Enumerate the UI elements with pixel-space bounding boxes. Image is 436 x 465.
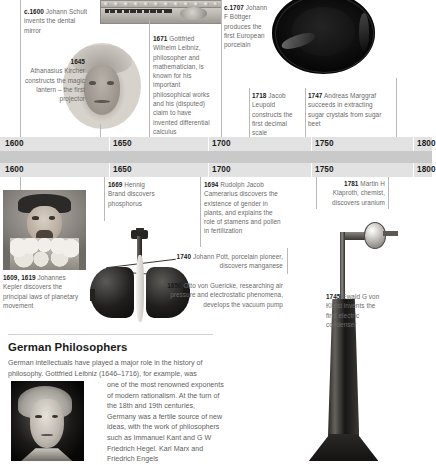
axis-label-1600: 1600: [5, 139, 24, 148]
entry-european-porcelain: c.1707 Johann F Böttger produces the fir…: [224, 3, 270, 49]
leader-line-uranium-left: [316, 177, 317, 209]
kepler-eye: [49, 216, 56, 219]
condenser-base: [309, 434, 379, 461]
entry-vacuum-pump: 1650 Otto von Guericke, researching air …: [166, 281, 283, 309]
leader-line-magic-lantern: [100, 124, 101, 137]
kircher-eye: [107, 81, 114, 85]
entry-year: 1609, 1619: [3, 274, 36, 281]
machine-knob: [193, 2, 199, 6]
entry-electric-condenser: 1745 Ewald G von Kleist invents the firs…: [326, 292, 383, 329]
timeline-axis-bottom: 1600 1650 1700 1750 1800: [0, 163, 432, 177]
hegel-eye: [52, 415, 59, 418]
entry-plant-gender: 1694 Rudolph Jacob Camerarius discovers …: [204, 180, 284, 236]
black-porcelain-plate-photo: [272, 0, 375, 74]
hegel-face: [30, 399, 64, 449]
entry-kepler-laws: 1609, 1619 Johannes Kepler discovers the…: [3, 273, 83, 310]
entry-year: c.1600: [24, 8, 44, 15]
machine-knob: [183, 2, 189, 6]
leader-line-porcelain: [221, 0, 222, 137]
entry-text: Johann Pott, porcelain pioneer, discover…: [191, 253, 283, 269]
entry-year: 1645: [71, 58, 85, 65]
pump-spout: [90, 289, 95, 301]
machine-stem: [195, 23, 200, 24]
leader-line-uranium-right: [388, 177, 389, 209]
axis-label-1650: 1650: [113, 165, 132, 174]
machine-rail: [105, 9, 172, 13]
leader-line-leibniz: [149, 20, 150, 137]
machine-foot: [156, 23, 162, 24]
leader-line-plant-gender: [200, 177, 201, 247]
entry-decimal-scale: 1718 Jacob Leupold constructs the first …: [252, 91, 300, 137]
plate-well: [292, 7, 356, 56]
entry-phosphorus: 1669 Hennig Brand discovers phosphorus: [108, 180, 156, 208]
entry-year: 1671: [153, 35, 167, 42]
axis-label-1700: 1700: [212, 139, 231, 148]
machine-knob: [133, 2, 139, 6]
entry-text: Otto von Guericke, researching air press…: [170, 282, 283, 308]
kepler-portrait: [3, 190, 86, 270]
axis-label-1800: 1800: [417, 165, 436, 174]
timeline-axis-divider: [0, 151, 432, 163]
entry-year: 1669: [108, 181, 122, 188]
machine-crank-wheel: [180, 7, 206, 20]
machine-knob: [203, 2, 209, 6]
entry-text: Gottfried Wilhelm Leibniz, philosopher a…: [153, 35, 210, 135]
leader-line-kepler: [20, 177, 21, 190]
entry-year: 1650: [167, 282, 181, 289]
leader-line-phosphorus: [104, 177, 105, 221]
entry-magic-lantern: 1645 Athanasius Kircher constructs the m…: [12, 57, 85, 103]
kircher-face: [84, 65, 120, 115]
kepler-eye: [32, 216, 39, 219]
machine-knob: [143, 2, 149, 6]
machine-knob: [113, 2, 119, 6]
entry-uranium: 1781 Martin H Klaproth, chemist, discove…: [320, 179, 385, 207]
leader-line-sugar-beet: [305, 88, 306, 137]
calculating-machine-illustration: [100, 0, 222, 24]
machine-knob: [103, 2, 109, 6]
entry-year: 1747: [308, 92, 322, 99]
entry-leibniz-calculus: 1671 Gottfried Wilhelm Leibniz, philosop…: [153, 34, 210, 136]
axis-label-1600: 1600: [5, 165, 24, 174]
feature-title: German Philosophers: [8, 341, 228, 353]
hemisphere-left: [90, 267, 134, 318]
axis-label-1700: 1700: [212, 165, 231, 174]
electric-condenser-illustration: [292, 215, 412, 461]
machine-knob: [173, 2, 179, 6]
hegel-eye: [35, 415, 42, 418]
entry-manganese: 1740 Johann Pott, porcelain pioneer, dis…: [176, 252, 283, 271]
kircher-eye: [89, 81, 96, 85]
axis-label-1750: 1750: [315, 165, 334, 174]
condenser-tip: [383, 231, 397, 236]
entry-year: 1745: [326, 293, 340, 300]
leader-line-right-edge: [396, 78, 397, 137]
entry-year: c.1707: [224, 4, 244, 11]
hemisphere-seam: [136, 255, 144, 322]
entry-text: Athanasius Kircher constructs the magic …: [25, 67, 85, 102]
leader-line-manganese: [287, 248, 288, 274]
feature-paragraph-lead: German intellectuals have played a major…: [8, 358, 230, 379]
machine-knob-row: [103, 1, 218, 6]
entry-text: Rudolph Jacob Camerarius discovers the e…: [204, 181, 281, 234]
kepler-ruff-collar: [10, 238, 80, 270]
entry-year: 1718: [252, 92, 266, 99]
pump-knob: [136, 228, 144, 232]
entry-sugar-beet: 1747 Andreas Marggraf succeeds in extrac…: [308, 91, 386, 128]
kircher-mouth: [94, 100, 110, 103]
machine-foot: [111, 23, 117, 24]
axis-label-1800: 1800: [417, 139, 436, 148]
machine-knob: [163, 2, 169, 6]
entry-year: 1781: [344, 180, 358, 187]
machine-knob: [213, 2, 219, 6]
hegel-portrait: [11, 381, 84, 461]
machine-knob: [153, 2, 159, 6]
entry-year: 1694: [204, 181, 218, 188]
axis-label-1650: 1650: [113, 139, 132, 148]
leader-line-decimal-scale: [249, 88, 250, 137]
timeline-axis-top: 1600 1650 1700 1750 1800: [0, 137, 432, 151]
axis-label-1750: 1750: [315, 139, 334, 148]
machine-knob: [123, 2, 129, 6]
feature-paragraph-wrap: one of the most renowned exponents of mo…: [107, 380, 224, 465]
entry-text: Martin H Klaproth, chemist, discovers ur…: [332, 180, 385, 206]
vacuum-pump-hemispheres-illustration: [90, 228, 190, 326]
